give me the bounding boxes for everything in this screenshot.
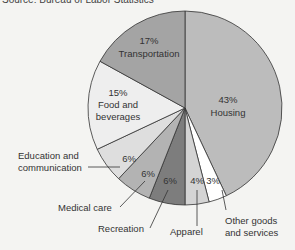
other-pct: 3% [206, 175, 220, 186]
med-pct: 6% [141, 168, 155, 179]
housing-pct: 43% [218, 94, 238, 105]
other-callout-1: Other goods [225, 215, 278, 226]
transport-pct: 17% [139, 35, 159, 46]
housing-label: Housing [211, 107, 246, 118]
transport-label: Transportation [119, 48, 180, 59]
edu-callout-1: Education and [18, 150, 79, 161]
rec-callout: Recreation [98, 223, 144, 234]
edu-pct: 6% [122, 153, 136, 164]
food-label-1: Food and [98, 99, 138, 110]
food-label-2: beverages [96, 111, 141, 122]
edu-callout-2: communication [18, 162, 82, 173]
rec-pct: 6% [163, 175, 177, 186]
food-pct: 15% [108, 87, 128, 98]
pie-chart: 43% Housing 17% Transportation 15% Food … [0, 0, 295, 250]
other-callout-2: and services [225, 227, 279, 238]
apparel-callout: Apparel [170, 226, 203, 237]
med-callout: Medical care [58, 202, 112, 213]
apparel-pct: 4% [190, 175, 204, 186]
